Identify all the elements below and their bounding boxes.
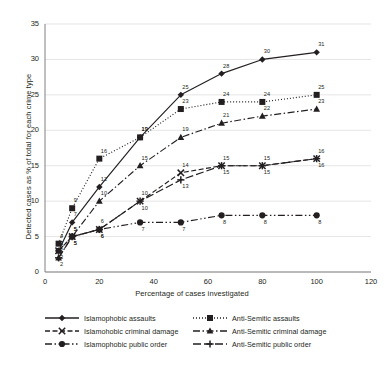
data-point-label: 23 xyxy=(182,98,188,104)
data-point-label: 8 xyxy=(264,219,267,225)
legend-item-anti-semitic-criminal-damage[interactable]: Anti-Semitic criminal damage xyxy=(192,326,372,336)
data-point-label: 7 xyxy=(142,226,145,232)
x-axis-title: Percentage of cases investigated xyxy=(0,289,384,298)
data-point-label: 15 xyxy=(142,155,148,161)
x-tick-label: 20 xyxy=(86,277,112,286)
data-point-label: 13 xyxy=(182,183,188,189)
data-point-marker xyxy=(259,212,265,218)
legend-key-islamophobic-public-order xyxy=(44,339,80,349)
data-point-marker xyxy=(219,99,225,105)
y-tick-label: 25 xyxy=(13,90,39,99)
data-point-marker xyxy=(69,205,75,211)
data-point-label: 9 xyxy=(74,197,77,203)
data-point-marker xyxy=(178,219,184,225)
y-tick-label: 30 xyxy=(13,54,39,63)
data-point-label: 14 xyxy=(182,162,188,168)
data-point-label: 16 xyxy=(101,148,107,154)
x-tick-label: 100 xyxy=(304,277,330,286)
data-point-label: 5 xyxy=(74,226,77,232)
chart-container: Detected cases as % of total for each cr… xyxy=(0,0,384,375)
data-point-label: 10 xyxy=(101,190,107,196)
data-point-marker xyxy=(313,105,320,111)
data-point-label: 31 xyxy=(318,41,324,47)
chart-legend: Islamophobic assaults Anti-Semitic assau… xyxy=(44,313,374,352)
x-tick-label: 60 xyxy=(195,277,221,286)
series-line-anti-semitic-public-order xyxy=(59,159,317,258)
data-point-label: 23 xyxy=(318,98,324,104)
data-point-label: 2 xyxy=(60,261,63,267)
legend-label: Anti-Semitic criminal damage xyxy=(232,327,326,336)
legend-label: Islamophobic public order xyxy=(84,340,167,349)
data-point-marker xyxy=(178,170,184,176)
legend-item-anti-semitic-assaults[interactable]: Anti-Semitic assaults xyxy=(192,313,372,323)
data-point-label: 15 xyxy=(264,155,270,161)
data-point-marker xyxy=(259,56,265,62)
legend-item-anti-semitic-public-order[interactable]: Anti-Semitic public order xyxy=(192,339,372,349)
legend-key-islamophobic-assaults xyxy=(44,313,80,323)
data-point-label: 7 xyxy=(74,211,77,217)
data-point-label: 16 xyxy=(318,148,324,154)
data-point-label: 8 xyxy=(223,219,226,225)
series-line-islamophobic-public-order xyxy=(59,215,317,250)
data-point-label: 12 xyxy=(101,176,107,182)
legend-item-islamophobic-public-order[interactable]: Islamophobic public order xyxy=(44,339,192,349)
data-point-marker xyxy=(218,212,224,218)
x-tick-label: 120 xyxy=(358,277,384,286)
y-axis-title: Detected cases as % of total for each cr… xyxy=(24,32,33,282)
data-point-marker xyxy=(259,99,265,105)
data-point-label: 10 xyxy=(142,190,148,196)
legend-row: Islamohobic criminal damage Anti-Semitic… xyxy=(44,326,374,336)
data-point-marker xyxy=(314,212,320,218)
data-point-label: 19 xyxy=(142,126,148,132)
data-point-marker xyxy=(314,92,320,98)
data-point-label: 5 xyxy=(74,240,77,246)
y-tick-label: 20 xyxy=(13,125,39,134)
legend-label: Anti-Semitic assaults xyxy=(232,314,300,323)
y-tick-label: 5 xyxy=(13,232,39,241)
data-point-label: 15 xyxy=(223,155,229,161)
data-point-marker xyxy=(313,49,319,55)
data-point-label: 2 xyxy=(60,247,63,253)
data-point-marker xyxy=(218,70,224,76)
data-point-label: 19 xyxy=(182,126,188,132)
legend-item-islamophobic-criminal-damage[interactable]: Islamohobic criminal damage xyxy=(44,326,192,336)
legend-label: Anti-Semitic public order xyxy=(232,340,311,349)
legend-label: Islamophobic assaults xyxy=(84,314,156,323)
data-point-label: 25 xyxy=(318,84,324,90)
series-line-islamohobic-criminal-damage xyxy=(59,159,317,251)
x-tick-label: 80 xyxy=(249,277,275,286)
data-point-label: 24 xyxy=(223,91,229,97)
data-point-label: 3 xyxy=(60,240,63,246)
x-tick-label: 40 xyxy=(141,277,167,286)
data-point-label: 15 xyxy=(223,169,229,175)
legend-label: Islamohobic criminal damage xyxy=(84,327,178,336)
data-point-label: 24 xyxy=(264,91,270,97)
y-tick-label: 0 xyxy=(13,267,39,276)
data-point-label: 30 xyxy=(264,48,270,54)
data-point-marker xyxy=(69,233,75,239)
data-point-label: 16 xyxy=(318,162,324,168)
data-point-label: 7 xyxy=(182,226,185,232)
data-point-label: 10 xyxy=(142,205,148,211)
legend-item-islamophobic-assaults[interactable]: Islamophobic assaults xyxy=(44,313,192,323)
data-point-marker xyxy=(96,156,102,162)
data-point-label: 6 xyxy=(101,233,104,239)
legend-key-anti-semitic-assaults xyxy=(192,313,228,323)
data-point-marker xyxy=(178,106,184,112)
legend-key-anti-semitic-public-order xyxy=(192,339,228,349)
data-point-label: 3 xyxy=(60,254,63,260)
data-point-label: 22 xyxy=(264,105,270,111)
y-tick-label: 10 xyxy=(13,196,39,205)
data-point-label: 4 xyxy=(60,233,63,239)
data-point-label: 15 xyxy=(264,169,270,175)
data-point-label: 8 xyxy=(318,219,321,225)
data-point-marker xyxy=(137,134,143,140)
legend-row: Islamophobic public order Anti-Semitic p… xyxy=(44,339,374,349)
data-point-marker xyxy=(96,226,102,232)
legend-row: Islamophobic assaults Anti-Semitic assau… xyxy=(44,313,374,323)
legend-key-islamophobic-criminal-damage xyxy=(44,326,80,336)
data-point-marker xyxy=(137,219,143,225)
legend-key-anti-semitic-criminal-damage xyxy=(192,326,228,336)
x-tick-label: 0 xyxy=(32,277,58,286)
data-point-label: 25 xyxy=(182,84,188,90)
